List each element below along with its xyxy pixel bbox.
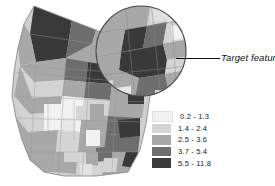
legend-label: 3.7 - 5.4: [178, 147, 207, 156]
legend-swatch: [152, 147, 171, 156]
figure-root: Target feature 0.2 - 1.3 1.4 - 2.4 2.5 -…: [0, 0, 275, 186]
legend-label: 1.4 - 2.4: [178, 124, 207, 133]
legend-label: 2.5 - 3.6: [178, 135, 207, 144]
legend-label: 5.5 - 11.8: [178, 159, 211, 168]
leader-line: [176, 58, 220, 59]
legend-item: 0.2 - 1.3: [152, 111, 211, 123]
map-legend: 0.2 - 1.3 1.4 - 2.4 2.5 - 3.6 3.7 - 5.4 …: [152, 111, 211, 169]
legend-label: 0.2 - 1.3: [180, 112, 209, 121]
magnifier-inset: [95, 4, 188, 100]
legend-swatch: [152, 111, 173, 122]
legend-item: 2.5 - 3.6: [152, 134, 211, 146]
legend-item: 1.4 - 2.4: [152, 123, 211, 135]
legend-swatch: [152, 158, 171, 167]
legend-swatch: [152, 135, 171, 144]
legend-item: 3.7 - 5.4: [152, 146, 211, 158]
legend-swatch: [152, 124, 171, 133]
magnifier-content: [95, 4, 188, 100]
target-feature-label: Target feature: [221, 52, 275, 63]
legend-item: 5.5 - 11.8: [152, 157, 211, 169]
